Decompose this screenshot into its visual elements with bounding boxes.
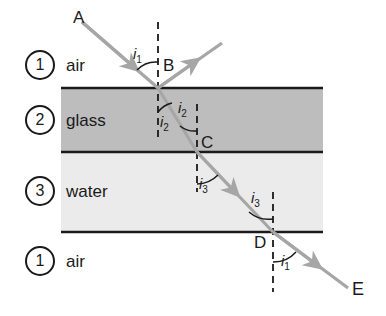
angle-label-i3-left: i3 bbox=[199, 175, 208, 195]
refraction-diagram bbox=[0, 0, 386, 316]
layer-number-air-top: 1 bbox=[25, 50, 55, 80]
angle-label-i2-right: i2 bbox=[178, 99, 187, 119]
point-label-a: A bbox=[73, 8, 84, 28]
layer-label-air-bottom: air bbox=[66, 252, 85, 272]
angle-subscript: 3 bbox=[254, 198, 260, 209]
layer-label-glass: glass bbox=[66, 111, 106, 131]
point-label-d: D bbox=[254, 233, 266, 253]
point-label-b: B bbox=[163, 56, 174, 76]
angle-subscript: 1 bbox=[136, 54, 142, 65]
figure-canvas: 1 air 2 glass 3 water 1 air A B C D E i1… bbox=[0, 0, 386, 316]
point-label-e: E bbox=[352, 279, 364, 300]
layer-label-water: water bbox=[66, 182, 108, 202]
layer-number-water: 3 bbox=[25, 176, 55, 206]
angle-label-i1-bottom: i1 bbox=[281, 252, 290, 272]
angle-subscript: 1 bbox=[284, 261, 290, 272]
angle-subscript: 2 bbox=[181, 108, 187, 119]
incident-ray-arrowhead bbox=[82, 22, 135, 68]
layer-number-air-bottom: 1 bbox=[25, 246, 55, 276]
angle-subscript: 3 bbox=[202, 184, 208, 195]
point-label-c: C bbox=[201, 133, 213, 153]
angle-label-i2-left: i2 bbox=[160, 113, 169, 133]
layer-label-air-top: air bbox=[66, 56, 85, 76]
layer-number-glass: 2 bbox=[25, 105, 55, 135]
angle-label-i1-top: i1 bbox=[133, 45, 142, 65]
angle-subscript: 2 bbox=[163, 122, 169, 133]
angle-label-i3-right: i3 bbox=[251, 189, 260, 209]
